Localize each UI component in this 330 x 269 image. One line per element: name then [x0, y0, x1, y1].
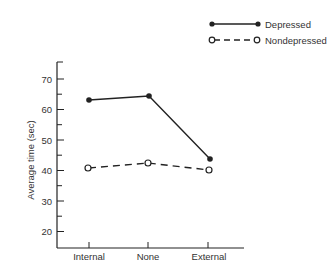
ytick-30: 30	[41, 196, 52, 207]
line-chart: Depressed Nondepressed 70 60 50 40 30 20…	[0, 0, 330, 269]
legend-depressed: Depressed	[265, 19, 311, 30]
ytick-70: 70	[41, 74, 52, 85]
series-depressed	[86, 93, 213, 162]
xtick-internal: Internal	[73, 251, 105, 262]
ytick-50: 50	[41, 135, 52, 146]
x-axis: Internal None External	[57, 242, 244, 262]
y-axis-label: Average time (sec)	[25, 120, 36, 200]
ytick-60: 60	[41, 104, 52, 115]
ytick-40: 40	[41, 165, 52, 176]
xtick-external: External	[192, 251, 227, 262]
legend: Depressed Nondepressed	[209, 19, 327, 46]
series-nondepressed	[85, 160, 212, 173]
ytick-20: 20	[41, 226, 52, 237]
xtick-none: None	[137, 251, 160, 262]
legend-nondepressed: Nondepressed	[265, 35, 327, 46]
y-axis: 70 60 50 40 30 20 Average time (sec)	[25, 62, 64, 248]
